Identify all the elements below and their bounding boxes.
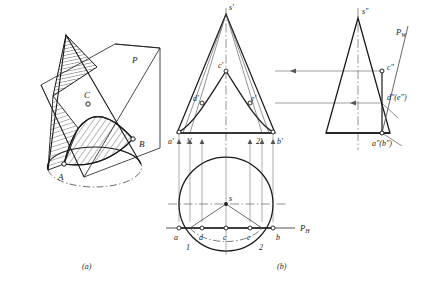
front-generatrix-4 [226, 14, 269, 133]
orthographic-views-b: s' a' b' c' d' e' 1' 2' [150, 0, 422, 262]
top-trace-label: PH [299, 223, 310, 234]
pictorial-label-p: P [131, 55, 138, 65]
top-radius-sb [226, 204, 262, 228]
front-point-c [224, 69, 228, 73]
front-label-c: c' [218, 61, 224, 70]
caption-b: (b) [277, 262, 286, 271]
point-a-marker [62, 162, 66, 166]
top-point-c [224, 226, 228, 230]
front-point-d [200, 101, 204, 105]
side-label-apex: s″ [362, 7, 369, 16]
point-b-marker [131, 137, 135, 141]
front-label-e: e' [251, 94, 257, 103]
horizontal-projector-arrows [290, 69, 356, 106]
top-label-c: c [223, 233, 227, 242]
caption-a: (a) [82, 262, 91, 271]
top-label-a: a [174, 233, 178, 242]
front-label-apex: s' [229, 3, 234, 12]
top-view-group: s a d c e b 1 2 PH [166, 157, 310, 252]
side-trace-pw [382, 26, 408, 133]
front-generatrix-1 [183, 14, 226, 133]
front-view-group: s' a' b' c' d' e' 1' 2' [168, 3, 283, 150]
side-label-de: d″(e″) [387, 93, 407, 102]
front-label-d: d' [193, 94, 199, 103]
point-c-marker [86, 102, 90, 106]
top-point-e [248, 226, 252, 230]
side-view-group: s″ c″ d″(e″) a″(b″) PW [326, 7, 408, 150]
figure-root: P A B C s' a' [0, 0, 422, 289]
top-label-e: e [247, 233, 251, 242]
top-point-a [177, 226, 181, 230]
side-trace-label: PW [395, 27, 407, 38]
top-point-b [271, 226, 275, 230]
top-trace-label-sub: H [304, 228, 310, 234]
front-generatrix-2 [190, 14, 226, 133]
front-label-b: b' [277, 137, 283, 146]
side-label-ab: a″(b″) [372, 139, 392, 148]
front-generatrix-3 [226, 14, 262, 133]
side-point-ab [380, 131, 384, 135]
apex-cut-region [53, 35, 97, 96]
side-point-c [380, 69, 384, 73]
top-point-d [200, 226, 204, 230]
side-label-c: c″ [387, 63, 395, 72]
horizontal-projectors [275, 71, 382, 103]
pictorial-label-a: A [57, 172, 64, 182]
pictorial-label-c: C [84, 90, 91, 100]
pictorial-label-b: B [139, 139, 145, 149]
top-radius-sa [190, 204, 226, 228]
front-label-a: a' [168, 137, 174, 146]
top-point-s [224, 202, 228, 206]
top-label-s: s [229, 194, 232, 203]
top-label-one: 1 [186, 243, 190, 252]
top-label-b: b [276, 233, 280, 242]
top-label-two: 2 [259, 243, 263, 252]
